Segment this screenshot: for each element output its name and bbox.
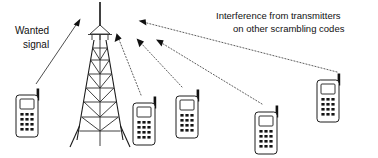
- phone-screen: [20, 99, 34, 109]
- phone-screen: [321, 84, 335, 94]
- ray-interference-2-line: [140, 42, 182, 87]
- wanted-signal-label-line1: Wanted: [15, 25, 49, 36]
- ray-interference-4-arrowhead-icon: [139, 19, 147, 25]
- ray-interference-1-line: [118, 37, 141, 95]
- interference-diagram: Wanted signal Interference from transmit…: [0, 0, 378, 158]
- ray-interference-2-arrowhead-icon: [137, 39, 144, 48]
- interference-label-line2: on other scrambling codes: [233, 23, 345, 34]
- phone-screen: [180, 100, 194, 110]
- phone-screen: [259, 116, 273, 126]
- mobile-phone-interferer-4: [317, 74, 340, 123]
- ray-interference-1: [115, 33, 141, 95]
- wanted-signal-label-line2: signal: [23, 39, 49, 50]
- ray-interference-1-arrowhead-icon: [115, 33, 122, 42]
- interference-label-line1: Interference from transmitters: [216, 10, 341, 21]
- tower-antenna-cap-icon: [90, 25, 110, 34]
- ray-interference-3-line: [160, 42, 262, 104]
- ray-interference-2: [137, 39, 182, 87]
- ray-interference-3-arrowhead-icon: [156, 39, 164, 46]
- mobile-phone-interferer-3: [255, 106, 278, 155]
- mobile-phone-wanted: [16, 89, 39, 138]
- mobile-phone-interferer-1: [133, 97, 156, 146]
- mobile-phone-interferer-2: [176, 90, 199, 139]
- ray-interference-3: [156, 39, 262, 104]
- diagram-canvas: Wanted signal Interference from transmit…: [0, 0, 378, 158]
- ray-wanted-signal-arrowhead-icon: [74, 19, 81, 27]
- phone-screen: [137, 107, 151, 117]
